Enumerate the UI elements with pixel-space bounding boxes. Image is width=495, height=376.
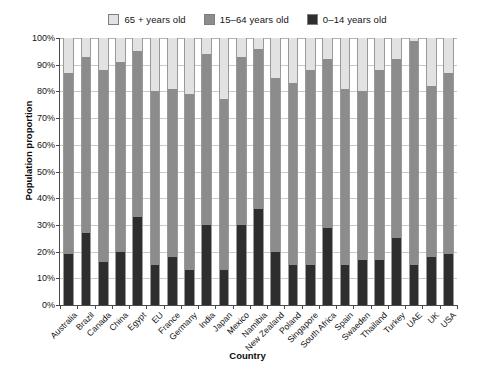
- x-tick-label: Egypt: [125, 310, 148, 333]
- stacked-bar[interactable]: [63, 38, 74, 305]
- legend-label-0-14: 0–14 years old: [323, 14, 387, 25]
- bar-slot: [233, 38, 250, 305]
- legend-swatch-0-14-icon: [307, 14, 318, 25]
- bar-slot: [250, 38, 267, 305]
- bar-segment-15-64: [151, 91, 160, 265]
- bar-segment-65-plus: [99, 38, 108, 70]
- bar-segment-15-64: [410, 41, 419, 265]
- bar-segment-65-plus: [254, 38, 263, 49]
- bar-segment-65-plus: [444, 38, 453, 73]
- bar-segment-15-64: [341, 89, 350, 265]
- bar-segment-65-plus: [289, 38, 298, 83]
- bar-segment-15-64: [237, 57, 246, 225]
- bar-segment-65-plus: [358, 38, 367, 91]
- stacked-bar[interactable]: [81, 38, 92, 305]
- bar-segment-15-64: [133, 51, 142, 217]
- bar-slot: [423, 38, 440, 305]
- stacked-bar[interactable]: [201, 38, 212, 305]
- bar-slot: [284, 38, 301, 305]
- bar-group: [60, 38, 457, 305]
- stacked-bar[interactable]: [322, 38, 333, 305]
- stacked-bar[interactable]: [426, 38, 437, 305]
- bar-segment-65-plus: [202, 38, 211, 54]
- bar-segment-0-14: [254, 209, 263, 305]
- bar-segment-0-14: [185, 270, 194, 305]
- bar-segment-65-plus: [168, 38, 177, 89]
- stacked-bar[interactable]: [132, 38, 143, 305]
- stacked-bar[interactable]: [409, 38, 420, 305]
- stacked-bar[interactable]: [357, 38, 368, 305]
- bar-segment-65-plus: [133, 38, 142, 51]
- bar-segment-0-14: [237, 225, 246, 305]
- bar-slot: [129, 38, 146, 305]
- bar-segment-0-14: [82, 233, 91, 305]
- bar-slot: [319, 38, 336, 305]
- bar-segment-0-14: [392, 238, 401, 305]
- bar-slot: [198, 38, 215, 305]
- stacked-bar[interactable]: [167, 38, 178, 305]
- x-tick-label: UAE: [404, 310, 424, 330]
- bar-segment-15-64: [220, 99, 229, 270]
- bar-segment-65-plus: [341, 38, 350, 89]
- y-tick-label: 90%: [37, 60, 55, 70]
- bar-segment-0-14: [410, 265, 419, 305]
- bar-segment-65-plus: [375, 38, 384, 70]
- stacked-bar[interactable]: [305, 38, 316, 305]
- stacked-bar[interactable]: [219, 38, 230, 305]
- stacked-bar[interactable]: [184, 38, 195, 305]
- stacked-bar[interactable]: [115, 38, 126, 305]
- bar-segment-15-64: [392, 59, 401, 238]
- bar-segment-0-14: [289, 265, 298, 305]
- bar-segment-15-64: [427, 86, 436, 257]
- stacked-bar[interactable]: [374, 38, 385, 305]
- bar-segment-0-14: [427, 257, 436, 305]
- bar-segment-15-64: [254, 49, 263, 209]
- bar-segment-15-64: [306, 70, 315, 265]
- x-axis-labels: AustraliaBrazilCanadaChinaEgyptEUFranceG…: [59, 306, 456, 350]
- bar-segment-65-plus: [220, 38, 229, 99]
- y-tick-label: 30%: [37, 220, 55, 230]
- bar-segment-0-14: [444, 254, 453, 305]
- x-tick-mark: [457, 305, 458, 309]
- bar-segment-15-64: [185, 94, 194, 270]
- stacked-bar[interactable]: [443, 38, 454, 305]
- stacked-bar[interactable]: [236, 38, 247, 305]
- bar-slot: [164, 38, 181, 305]
- y-tick-label: 10%: [37, 273, 55, 283]
- chart-legend: 65 + years old 15–64 years old 0–14 year…: [0, 14, 495, 25]
- bar-slot: [112, 38, 129, 305]
- stacked-bar[interactable]: [270, 38, 281, 305]
- y-tick-label: 80%: [37, 86, 55, 96]
- bar-segment-0-14: [151, 265, 160, 305]
- y-tick-label: 60%: [37, 140, 55, 150]
- bar-segment-15-64: [64, 73, 73, 255]
- x-axis-title: Country: [0, 350, 495, 361]
- plot-area: 0%10%20%30%40%50%60%70%80%90%100%: [59, 38, 457, 306]
- stacked-bar[interactable]: [340, 38, 351, 305]
- stacked-bar[interactable]: [98, 38, 109, 305]
- bar-slot: [95, 38, 112, 305]
- bar-slot: [405, 38, 422, 305]
- stacked-bar[interactable]: [253, 38, 264, 305]
- bar-slot: [336, 38, 353, 305]
- bar-segment-65-plus: [237, 38, 246, 57]
- bar-segment-65-plus: [271, 38, 280, 78]
- bar-segment-15-64: [168, 89, 177, 257]
- bar-slot: [440, 38, 457, 305]
- bar-segment-15-64: [99, 70, 108, 262]
- stacked-bar-chart-figure: 65 + years old 15–64 years old 0–14 year…: [0, 0, 495, 376]
- bar-segment-15-64: [323, 59, 332, 227]
- stacked-bar[interactable]: [391, 38, 402, 305]
- bar-segment-15-64: [82, 57, 91, 233]
- bar-segment-65-plus: [64, 38, 73, 73]
- bar-segment-65-plus: [427, 38, 436, 86]
- stacked-bar[interactable]: [150, 38, 161, 305]
- bar-segment-65-plus: [185, 38, 194, 94]
- bar-slot: [60, 38, 77, 305]
- legend-swatch-65-plus-icon: [108, 14, 119, 25]
- bar-segment-0-14: [341, 265, 350, 305]
- bar-segment-0-14: [375, 260, 384, 305]
- bar-segment-15-64: [271, 78, 280, 252]
- stacked-bar[interactable]: [288, 38, 299, 305]
- legend-item-15-64: 15–64 years old: [204, 14, 289, 25]
